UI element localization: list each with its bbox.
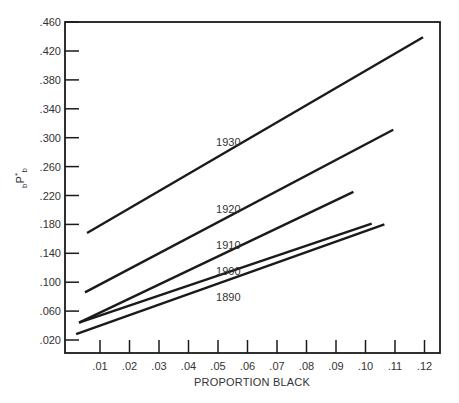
x-tick-label: .11 xyxy=(388,360,402,372)
series-label-1920: 1920 xyxy=(216,203,240,215)
y-tick-label: .060 xyxy=(40,305,61,317)
x-tick-label: .09 xyxy=(328,360,343,372)
x-tick-label: .05 xyxy=(210,360,225,372)
x-tick-label: .02 xyxy=(122,360,137,372)
y-tick-label: .260 xyxy=(40,161,61,173)
svg-text:bP*b: bP*b xyxy=(13,168,29,189)
y-tick-label: .140 xyxy=(40,247,61,259)
y-tick-label: .300 xyxy=(40,132,61,144)
y-tick-label: .340 xyxy=(40,103,61,115)
series-lines xyxy=(76,37,423,334)
x-tick-label: .03 xyxy=(151,360,166,372)
y-title-main: P xyxy=(14,176,26,184)
y-tick-label: .180 xyxy=(40,218,61,230)
y-tick-label: .460 xyxy=(40,16,61,28)
series-label-1890: 1890 xyxy=(216,291,240,303)
y-title-sub: b xyxy=(20,168,29,173)
y-tick-label: .420 xyxy=(40,45,61,57)
x-axis-title: PROPORTION BLACK xyxy=(194,376,311,388)
x-tick-label: .10 xyxy=(358,360,373,372)
series-label-1910: 1910 xyxy=(216,239,240,251)
line-chart: .020.060.100.140.180.220.260.300.340.380… xyxy=(0,0,459,403)
series-label-1930: 1930 xyxy=(216,136,240,148)
x-tick-label: .08 xyxy=(299,360,314,372)
y-tick-label: .020 xyxy=(40,334,61,346)
y-tick-label: .100 xyxy=(40,276,61,288)
x-tick-label: .04 xyxy=(181,360,196,372)
x-tick-label: .06 xyxy=(240,360,255,372)
x-tick-label: .12 xyxy=(417,360,432,372)
series-label-1900: 1900 xyxy=(216,265,240,277)
x-tick-label: .07 xyxy=(269,360,284,372)
y-tick-label: .220 xyxy=(40,190,61,202)
y-axis-title: bP*b xyxy=(13,168,29,189)
y-axis-ticks: .020.060.100.140.180.220.260.300.340.380… xyxy=(40,16,79,346)
x-tick-label: .01 xyxy=(92,360,107,372)
x-axis-ticks: .01.02.03.04.05.06.07.08.09.10.11.12 xyxy=(92,340,432,372)
y-tick-label: .380 xyxy=(40,74,61,86)
